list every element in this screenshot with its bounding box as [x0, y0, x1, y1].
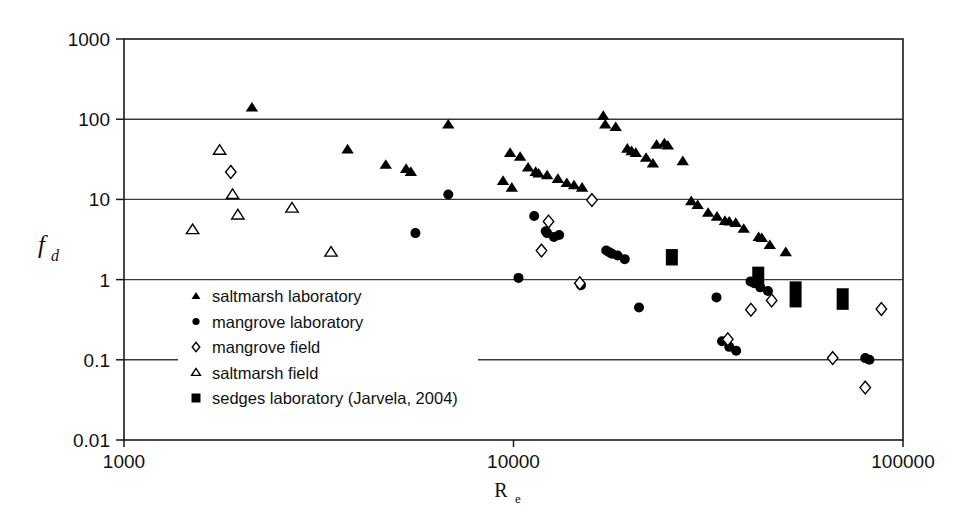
- x-axis-title: R e: [494, 479, 521, 506]
- data-point: [529, 211, 539, 221]
- data-point: [587, 194, 597, 207]
- data-point: [620, 254, 630, 264]
- data-point: [341, 144, 353, 154]
- data-point: [702, 207, 714, 217]
- data-point: [232, 209, 244, 219]
- data-point: [677, 156, 689, 166]
- y-tick-label: 100: [78, 109, 110, 130]
- x-axis-title-subscript: e: [515, 491, 521, 506]
- data-point: [543, 215, 553, 228]
- data-point: [610, 121, 622, 131]
- legend-item: sedges laboratory (Jarvela, 2004): [192, 389, 458, 407]
- y-tick-label: 0.1: [84, 350, 110, 371]
- data-point: [497, 175, 509, 185]
- y-axis-title-base: f: [38, 231, 48, 258]
- data-point: [186, 224, 198, 234]
- data-point: [514, 151, 526, 161]
- legend-item-label: saltmarsh laboratory: [212, 287, 362, 305]
- data-point: [504, 147, 516, 157]
- data-point: [827, 352, 837, 365]
- y-tick-label: 0.01: [73, 430, 110, 451]
- y-tick-label: 10: [89, 189, 110, 210]
- chart-figure: 0.010.11101001000 100010000100000 saltma…: [0, 0, 961, 516]
- data-point: [634, 302, 644, 312]
- legend-item-label: saltmarsh field: [212, 364, 318, 382]
- legend-marker-filled-circle-icon: [192, 318, 199, 325]
- data-point: [213, 145, 225, 155]
- data-point: [780, 247, 792, 257]
- data-point: [410, 228, 420, 238]
- data-point: [599, 119, 611, 129]
- series-saltmarsh-laboratory: [246, 102, 792, 256]
- legend-item: mangrove laboratory: [192, 313, 364, 331]
- data-bar: [666, 249, 678, 265]
- y-axis-tick-labels: 0.010.11101001000: [68, 29, 110, 451]
- data-point: [876, 303, 886, 316]
- x-axis-tick-labels: 100010000100000: [103, 451, 935, 472]
- y-tick-label: 1000: [68, 29, 110, 50]
- data-point: [226, 166, 236, 179]
- data-point: [864, 355, 874, 365]
- data-point: [711, 292, 721, 302]
- data-point: [514, 273, 524, 283]
- x-tick-label: 1000: [103, 451, 145, 472]
- y-axis-title: f d: [38, 231, 60, 264]
- data-point: [443, 190, 453, 200]
- data-point: [731, 346, 741, 356]
- data-point: [554, 230, 564, 240]
- data-point: [860, 381, 870, 394]
- legend-item: saltmarsh laboratory: [192, 287, 363, 305]
- data-point: [746, 303, 756, 316]
- x-tick-label: 100000: [871, 451, 934, 472]
- legend-item-label: sedges laboratory (Jarvela, 2004): [212, 389, 458, 407]
- data-bar: [752, 267, 764, 287]
- y-tick-label: 1: [99, 270, 110, 291]
- data-point: [597, 110, 609, 120]
- legend-item-label: mangrove laboratory: [212, 313, 364, 331]
- data-point: [536, 244, 546, 257]
- legend-item: mangrove field: [192, 338, 320, 356]
- data-point: [640, 152, 652, 162]
- data-bar: [790, 281, 802, 307]
- data-point: [286, 202, 298, 212]
- data-point: [380, 159, 392, 169]
- legend: saltmarsh laboratorymangrove laboratorym…: [178, 283, 478, 415]
- x-axis-title-base: R: [494, 479, 508, 501]
- scatter-plot-canvas: 0.010.11101001000 100010000100000 saltma…: [0, 0, 961, 516]
- data-point: [442, 119, 454, 129]
- data-point: [325, 247, 337, 257]
- y-axis-title-subscript: d: [51, 247, 60, 264]
- data-bar: [837, 288, 849, 310]
- data-point: [226, 189, 238, 199]
- series-saltmarsh-field: [186, 145, 337, 256]
- legend-item-label: mangrove field: [212, 338, 320, 356]
- data-point: [522, 162, 534, 172]
- legend-marker-filled-bar-icon: [192, 394, 201, 403]
- data-point: [552, 173, 564, 183]
- x-tick-label: 10000: [487, 451, 540, 472]
- data-point: [246, 102, 258, 112]
- series-mangrove-laboratory: [410, 190, 874, 365]
